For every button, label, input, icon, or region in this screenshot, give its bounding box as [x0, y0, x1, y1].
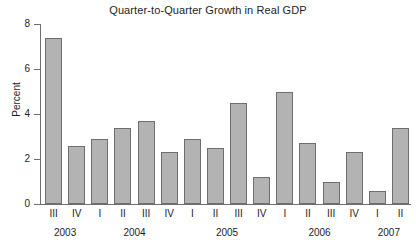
x-axis-year-label: 2007	[366, 227, 412, 238]
x-axis-quarter-label: III	[42, 208, 65, 219]
x-axis-quarter-label: II	[204, 208, 227, 219]
bar	[184, 139, 201, 204]
y-axis-title: Percent	[11, 65, 22, 135]
x-axis-quarter-label: III	[135, 208, 158, 219]
chart-title: Quarter-to-Quarter Growth in Real GDP	[0, 4, 416, 16]
bar	[68, 146, 85, 205]
y-axis-tick-label: 0	[0, 199, 30, 209]
bar	[253, 177, 270, 204]
x-axis-quarter-label: IV	[250, 208, 273, 219]
x-axis-quarter-label: III	[227, 208, 250, 219]
x-axis-year-label: 2004	[88, 227, 181, 238]
x-axis-quarter-label: I	[88, 208, 111, 219]
plot-area	[40, 24, 410, 204]
bar	[138, 121, 155, 204]
bar	[230, 103, 247, 204]
y-axis-tick-label: 6	[0, 64, 30, 74]
x-axis-quarter-label: II	[296, 208, 319, 219]
x-axis-quarter-label: IV	[65, 208, 88, 219]
x-axis-quarter-label: I	[366, 208, 389, 219]
bar	[114, 128, 131, 205]
bar	[346, 152, 363, 204]
y-axis-tick-label: 8	[0, 19, 30, 29]
y-axis-tick-label: 4	[0, 109, 30, 119]
bar	[323, 182, 340, 205]
x-axis-year-label: 2005	[181, 227, 274, 238]
bar	[161, 152, 178, 204]
x-axis-quarter-label: I	[181, 208, 204, 219]
x-axis-quarter-label: IV	[158, 208, 181, 219]
bar	[45, 38, 62, 205]
bar	[207, 148, 224, 204]
x-axis-quarter-label: II	[111, 208, 134, 219]
chart-figure: Quarter-to-Quarter Growth in Real GDP Pe…	[0, 0, 416, 252]
x-axis-year-label: 2006	[273, 227, 366, 238]
bar	[276, 92, 293, 205]
bar	[299, 143, 316, 204]
bar	[91, 139, 108, 204]
x-axis-quarter-label: III	[320, 208, 343, 219]
x-axis-line	[40, 204, 411, 205]
x-axis-quarter-label: II	[389, 208, 412, 219]
x-axis-quarter-label: I	[273, 208, 296, 219]
bar	[369, 191, 386, 205]
x-axis-quarter-label: IV	[343, 208, 366, 219]
y-axis-tick	[34, 204, 40, 205]
x-axis-year-label: 2003	[42, 227, 88, 238]
bar	[392, 128, 409, 205]
y-axis-tick-label: 2	[0, 154, 30, 164]
